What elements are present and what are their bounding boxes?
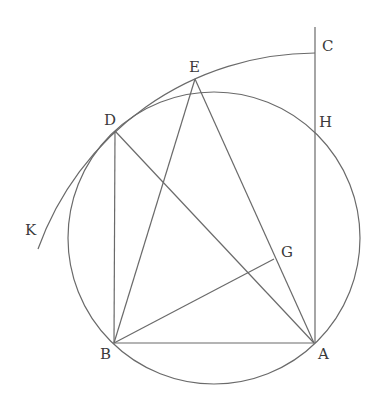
label-h: H (319, 113, 332, 131)
geometry-diagram: C E D H K G B A (0, 0, 377, 412)
label-c: C (322, 37, 333, 55)
arc-kdec (38, 53, 315, 249)
label-e: E (189, 58, 200, 76)
line-bg (114, 259, 274, 343)
circle (68, 92, 360, 384)
label-b: B (100, 345, 111, 363)
line-bd (114, 131, 115, 343)
line-ea (195, 79, 314, 343)
line-be (114, 79, 195, 343)
label-k: K (25, 221, 37, 239)
line-da (115, 131, 314, 343)
diagram-svg: C E D H K G B A (0, 0, 377, 412)
label-g: G (281, 243, 293, 261)
label-a: A (317, 345, 329, 363)
label-d: D (104, 111, 116, 129)
